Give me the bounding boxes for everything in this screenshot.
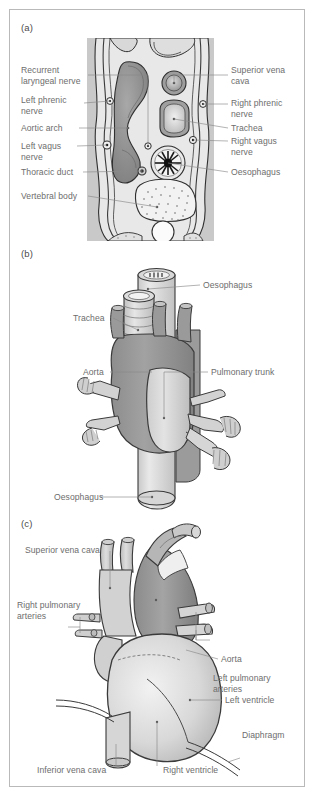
label-diaphragm: Diaphragm	[242, 730, 284, 741]
svc-shape-c	[99, 570, 136, 636]
label-right-pulmonary-arteries: Right pulmonary arteries	[17, 600, 80, 621]
anatomy-figure: (a)	[0, 0, 315, 797]
label-right-ventricle: Right ventricle	[163, 765, 218, 776]
label-superior-vena-cava-c: Superior vena cava	[25, 545, 100, 556]
label-inferior-vena-cava: Inferior vena cava	[37, 765, 106, 776]
label-left-ventricle: Left ventricle	[225, 695, 274, 706]
label-aorta-c: Aorta	[221, 654, 242, 665]
label-left-pulmonary-arteries: Left pulmonary arteries	[213, 673, 271, 694]
